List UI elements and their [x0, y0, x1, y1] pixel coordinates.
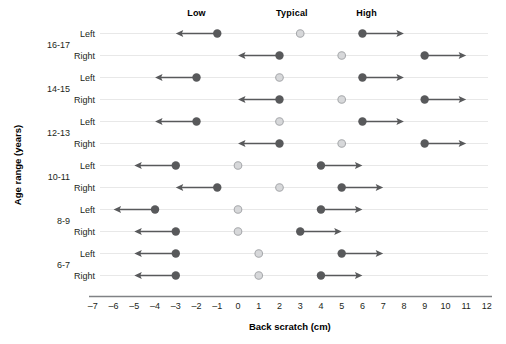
- low-marker: [172, 271, 180, 279]
- x-tick--2: –2: [192, 301, 202, 311]
- typical-marker: [255, 272, 263, 280]
- y-axis-title: Age range (years): [12, 125, 23, 205]
- low-marker: [275, 139, 283, 147]
- x-tick-4: 4: [318, 301, 323, 311]
- typical-marker: [276, 74, 284, 82]
- typical-marker: [234, 162, 242, 170]
- x-tick--4: –4: [150, 301, 160, 311]
- chart-row-14-15-left: [100, 73, 488, 81]
- typical-marker: [338, 96, 346, 104]
- typical-marker: [234, 228, 242, 236]
- typical-marker: [276, 184, 284, 192]
- typical-marker: [338, 140, 346, 148]
- x-tick-7: 7: [381, 301, 386, 311]
- low-marker: [172, 161, 180, 169]
- chart-row-16-17-left: [100, 29, 488, 37]
- high-marker: [358, 73, 366, 81]
- x-axis-title: Back scratch (cm): [249, 321, 331, 332]
- low-marker: [275, 95, 283, 103]
- x-tick-8: 8: [401, 301, 406, 311]
- high-marker: [420, 95, 428, 103]
- x-tick-10: 10: [440, 301, 450, 311]
- chart-row-12-13-right: [100, 139, 488, 147]
- low-marker: [151, 205, 159, 213]
- typical-marker: [255, 250, 263, 258]
- x-tick-12: 12: [482, 301, 492, 311]
- low-marker: [192, 73, 200, 81]
- high-marker: [317, 205, 325, 213]
- back-scratch-chart: LowTypicalHigh LeftRightLeftRightLeftRig…: [0, 0, 506, 344]
- chart-row-10-11-right: [100, 183, 488, 191]
- chart-row-6-7-right: [100, 271, 488, 279]
- x-tick-3: 3: [298, 301, 303, 311]
- low-marker: [275, 51, 283, 59]
- x-tick--6: –6: [109, 301, 119, 311]
- chart-row-16-17-right: [100, 51, 488, 59]
- x-tick-6: 6: [360, 301, 365, 311]
- low-marker: [192, 117, 200, 125]
- low-marker: [213, 29, 221, 37]
- chart-row-14-15-right: [100, 95, 488, 103]
- high-marker: [420, 51, 428, 59]
- high-marker: [338, 183, 346, 191]
- x-tick--3: –3: [171, 301, 181, 311]
- x-tick-9: 9: [422, 301, 427, 311]
- typical-marker: [338, 52, 346, 60]
- high-marker: [317, 161, 325, 169]
- chart-row-8-9-left: [100, 205, 488, 213]
- high-marker: [420, 139, 428, 147]
- x-tick-1: 1: [256, 301, 261, 311]
- x-tick-11: 11: [461, 301, 470, 311]
- typical-marker: [296, 30, 304, 38]
- chart-row-6-7-left: [100, 249, 488, 257]
- high-marker: [358, 29, 366, 37]
- high-marker: [338, 249, 346, 257]
- high-marker: [296, 227, 304, 235]
- x-tick-0: 0: [235, 301, 240, 311]
- low-marker: [172, 249, 180, 257]
- x-tick--7: –7: [88, 301, 98, 311]
- high-marker: [358, 117, 366, 125]
- low-marker: [213, 183, 221, 191]
- chart-row-12-13-left: [100, 117, 488, 125]
- typical-marker: [234, 206, 242, 214]
- low-marker: [172, 227, 180, 235]
- typical-marker: [276, 118, 284, 126]
- x-tick-5: 5: [339, 301, 344, 311]
- chart-row-8-9-right: [100, 227, 488, 235]
- chart-row-10-11-left: [100, 161, 488, 169]
- x-tick-2: 2: [277, 301, 282, 311]
- high-marker: [317, 271, 325, 279]
- plot-area: [0, 0, 506, 344]
- x-tick--1: –1: [212, 301, 222, 311]
- x-tick--5: –5: [129, 301, 139, 311]
